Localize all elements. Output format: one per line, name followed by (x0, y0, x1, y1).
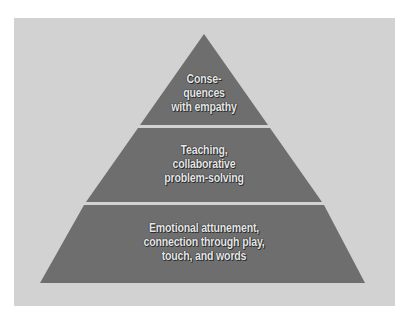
label-line: Emotional attunement, (125, 221, 283, 235)
label-line: quences (160, 86, 248, 100)
label-line: collaborative (142, 157, 265, 171)
layer-middle-label: Teaching, collaborative problem-solving (142, 143, 265, 185)
layer-bottom-label: Emotional attunement, connection through… (125, 221, 283, 263)
label-line: touch, and words (125, 249, 283, 263)
label-line: problem-solving (142, 171, 265, 185)
label-line: with empathy (160, 100, 248, 114)
label-line: connection through play, (125, 235, 283, 249)
label-line: Teaching, (142, 143, 265, 157)
label-line: Conse- (160, 72, 248, 86)
layer-top-label: Conse- quences with empathy (160, 72, 248, 114)
